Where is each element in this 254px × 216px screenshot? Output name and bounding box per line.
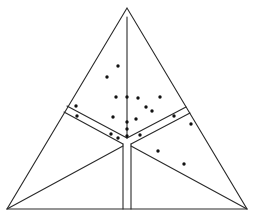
- data-point: [134, 117, 137, 120]
- right-diagonal-line: [131, 146, 247, 209]
- data-point: [144, 105, 147, 108]
- data-point: [125, 127, 128, 130]
- data-point: [111, 115, 114, 118]
- data-point: [105, 75, 108, 78]
- data-point: [116, 64, 119, 67]
- data-point: [74, 104, 77, 107]
- data-point: [182, 162, 185, 165]
- region-divider-lines: [7, 17, 247, 209]
- data-point: [156, 149, 159, 152]
- data-point: [138, 133, 141, 136]
- right-band-upper-line: [127, 107, 186, 138]
- data-point: [158, 95, 161, 98]
- ternary-diagram: [0, 0, 254, 216]
- data-point: [136, 96, 139, 99]
- data-point: [189, 122, 192, 125]
- left-band-upper-line: [67, 106, 127, 138]
- data-point: [116, 136, 119, 139]
- data-point: [75, 114, 78, 117]
- data-points: [74, 64, 192, 165]
- data-point: [125, 120, 128, 123]
- data-point: [172, 114, 175, 117]
- data-point: [150, 109, 153, 112]
- data-point: [109, 132, 112, 135]
- data-point: [125, 134, 128, 137]
- left-diagonal-line: [7, 146, 123, 209]
- data-point: [114, 95, 117, 98]
- data-point: [125, 95, 128, 98]
- right-band-lower-line: [131, 113, 190, 144]
